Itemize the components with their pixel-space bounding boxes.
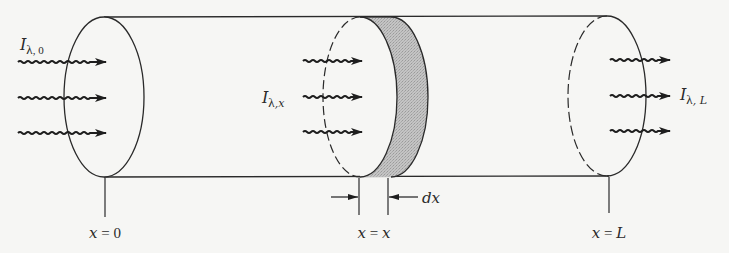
wavy-arrow-icon (610, 130, 670, 132)
wavy-arrow-icon (303, 96, 362, 98)
exit-radiation-arrows (610, 59, 670, 132)
position-label-start: x = 0 (89, 224, 121, 242)
local-radiation-arrows (303, 60, 362, 133)
local-intensity-label: Iλ,x (261, 88, 285, 110)
right-face-hidden-arc (568, 16, 607, 176)
dx-label: dx (422, 189, 441, 207)
position-label-end: x = L (592, 224, 626, 242)
position-label-middle: x = x (358, 224, 391, 242)
exit-intensity-label: Iλ, L (679, 85, 707, 107)
wavy-arrow-icon (18, 97, 106, 99)
cylinder-top-edge (104, 16, 607, 17)
wavy-arrow-icon (610, 95, 670, 97)
wavy-arrow-icon (303, 60, 362, 62)
wavy-arrow-icon (18, 132, 106, 134)
radiation-attenuation-diagram: dx Iλ, 0 Iλ,x Iλ, L x = 0 x = x x = L (0, 0, 729, 253)
wavy-arrow-icon (303, 131, 362, 133)
incident-intensity-label: Iλ, 0 (19, 35, 44, 57)
wavy-arrow-icon (610, 59, 670, 61)
wavy-arrow-icon (18, 61, 106, 63)
